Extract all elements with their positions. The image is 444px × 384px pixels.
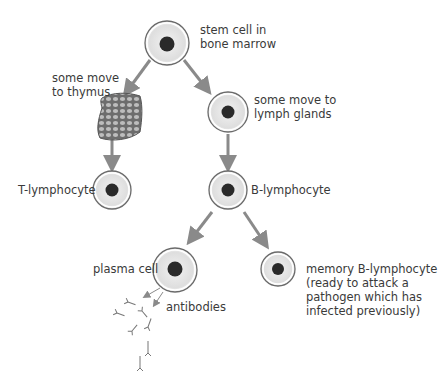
label-plasma-cell: plasma cell [93, 262, 158, 276]
label-line: stem cell in [200, 23, 276, 37]
label-thymus: some move to thymus [52, 71, 119, 99]
label-line: some move to [254, 93, 336, 107]
label-line: some move [52, 71, 119, 85]
arrow-plasma-antibody-1 [146, 288, 160, 296]
antibody [137, 356, 143, 371]
antibody [128, 323, 140, 335]
antibody [144, 318, 154, 331]
label-line: pathogen which has [306, 290, 437, 304]
nucleus [272, 263, 284, 275]
antibodies-group [113, 298, 154, 371]
arrow-plasma-antibody-2 [155, 292, 163, 304]
cell-t-lymphocyte [93, 171, 131, 209]
label-t-lymphocyte: T-lymphocyte [18, 183, 96, 197]
label-b-lymphocyte: B-lymphocyte [251, 183, 331, 197]
label-line: (ready to attack a [306, 276, 437, 290]
antibody [145, 341, 151, 356]
antibody [113, 309, 125, 318]
arrow-b-to-plasma [192, 212, 212, 238]
label-lymph-glands: some move to lymph glands [254, 93, 336, 121]
label-line: infected previously) [306, 304, 437, 318]
cell-memory-b [261, 252, 295, 286]
label-line: to thymus [52, 85, 119, 99]
cell-plasma [153, 248, 197, 292]
nucleus [222, 106, 235, 119]
label-line: bone marrow [200, 37, 276, 51]
arrow-stem-to-thymus [128, 60, 150, 90]
label-antibodies: antibodies [166, 300, 226, 314]
cell-stem [145, 21, 189, 65]
nucleus [168, 262, 183, 277]
arrow-stem-to-lymph [184, 60, 206, 88]
nucleus [160, 37, 175, 52]
label-line: lymph glands [254, 107, 336, 121]
label-memory-b-lymphocyte: memory B-lymphocyte (ready to attack a p… [306, 262, 437, 318]
cell-b-lymphocyte [209, 171, 247, 209]
label-stem-cell: stem cell in bone marrow [200, 23, 276, 51]
label-line: memory B-lymphocyte [306, 262, 437, 276]
antibody [124, 298, 136, 307]
cell-lymph [208, 92, 248, 132]
nucleus [222, 184, 235, 197]
thymus-organ [98, 93, 142, 140]
antibody [138, 307, 150, 319]
nucleus [106, 184, 119, 197]
arrow-b-to-memory [244, 212, 264, 242]
